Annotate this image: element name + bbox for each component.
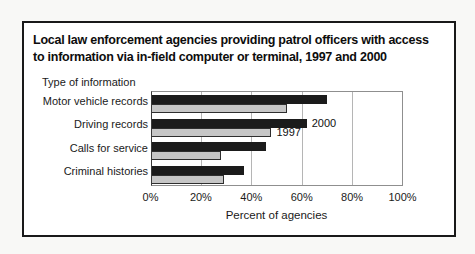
bar-1997-driving-records	[151, 128, 272, 137]
bar-2000-motor-vehicle-records	[151, 95, 327, 104]
series-annotation-2000: 2000	[312, 117, 336, 130]
plot-area: 20001997	[151, 91, 403, 186]
x-tick-label-80%: 80%	[330, 191, 374, 204]
x-axis-title: Percent of agencies	[151, 209, 403, 221]
bar-1997-motor-vehicle-records	[151, 104, 287, 113]
bar-2000-criminal-histories	[151, 166, 244, 175]
bar-2000-calls-for-service	[151, 142, 267, 151]
x-tick-label-60%: 60%	[280, 191, 324, 204]
category-label-motor-vehicle-records: Motor vehicle records	[28, 95, 148, 108]
x-tick-label-40%: 40%	[229, 191, 273, 204]
category-label-driving-records: Driving records	[28, 118, 148, 131]
gridline-60%	[302, 91, 303, 186]
gridline-80%	[352, 91, 353, 186]
x-tick-label-0%: 0%	[129, 191, 173, 204]
category-label-calls-for-service: Calls for service	[28, 142, 148, 155]
page-background: Local law enforcement agencies providing…	[0, 0, 475, 254]
x-tick-label-20%: 20%	[179, 191, 223, 204]
category-label-criminal-histories: Criminal histories	[28, 165, 148, 178]
bar-1997-criminal-histories	[151, 175, 224, 184]
x-axis-ticks: 0%20%40%60%80%100%	[151, 191, 403, 204]
series-annotation-1997: 1997	[276, 126, 300, 139]
x-tick-label-100%: 100%	[381, 191, 425, 204]
bar-1997-calls-for-service	[151, 151, 222, 160]
figure-box: Local law enforcement agencies providing…	[22, 21, 456, 237]
